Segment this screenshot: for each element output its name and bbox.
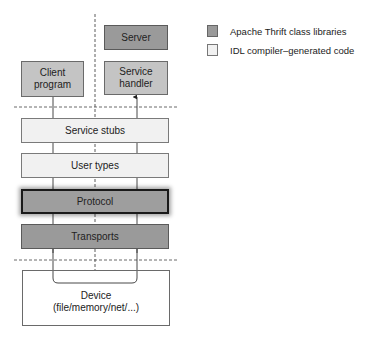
client-program-label-line1: Client xyxy=(40,67,66,79)
legend-label-libraries: Apache Thrift class libraries xyxy=(230,26,347,37)
service-stubs-label: Service stubs xyxy=(65,125,125,137)
client-program-label-line2: program xyxy=(34,79,71,91)
legend-label-generated: IDL compiler–generated code xyxy=(230,45,354,56)
transports-layer: Transports xyxy=(21,224,169,249)
device-box: Device (file/memory/net/...) xyxy=(22,270,170,326)
service-handler-label-line2: handler xyxy=(119,78,152,90)
device-label-line1: Device xyxy=(81,290,112,302)
protocol-label: Protocol xyxy=(77,196,114,208)
server-box: Server xyxy=(104,25,168,50)
device-label-line2: (file/memory/net/...) xyxy=(53,302,139,314)
service-stubs-layer: Service stubs xyxy=(21,118,169,143)
legend-swatch-libraries xyxy=(207,25,218,37)
service-handler-label-line1: Service xyxy=(119,66,152,78)
user-types-label: User types xyxy=(71,160,119,172)
protocol-layer: Protocol xyxy=(21,189,169,214)
legend-swatch-generated xyxy=(207,44,218,56)
transports-label: Transports xyxy=(71,231,118,243)
user-types-layer: User types xyxy=(21,153,169,178)
server-label: Server xyxy=(121,32,150,44)
legend-item-generated: IDL compiler–generated code xyxy=(207,44,354,56)
client-program-box: Client program xyxy=(21,61,84,97)
service-handler-box: Service handler xyxy=(104,61,168,95)
legend-item-libraries: Apache Thrift class libraries xyxy=(207,25,347,37)
